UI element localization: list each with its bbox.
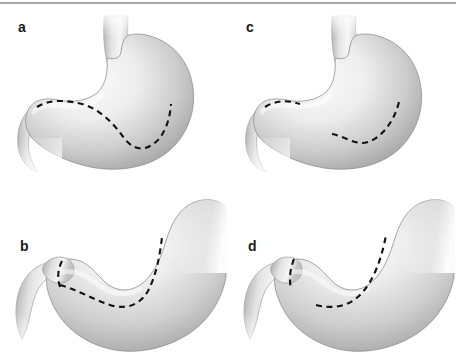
duodenum-fade-a — [10, 138, 62, 180]
esophagus-fade-a — [92, 10, 138, 36]
panel-label-b: b — [20, 239, 29, 253]
panel-b: b — [0, 181, 228, 361]
panel-d: d — [228, 181, 456, 361]
figure-canvas: a — [0, 0, 456, 361]
stomach-illustration-c — [228, 0, 456, 180]
duodenum-fade-d — [236, 309, 276, 357]
panel-a: a — [0, 0, 228, 180]
panel-label-a: a — [18, 20, 26, 34]
panel-label-d: d — [248, 239, 257, 253]
duodenum-fade-b — [8, 309, 48, 357]
duodenum-fade-c — [238, 138, 290, 180]
fundus-fade-d — [404, 193, 456, 273]
stomach-illustration-d — [228, 181, 456, 361]
stomach-illustration-a — [0, 0, 228, 180]
stomach-illustration-b — [0, 181, 228, 361]
panel-label-c: c — [246, 20, 254, 34]
esophagus-fade-c — [320, 10, 366, 36]
fundus-fade-b — [176, 193, 228, 273]
panel-c: c — [228, 0, 456, 180]
